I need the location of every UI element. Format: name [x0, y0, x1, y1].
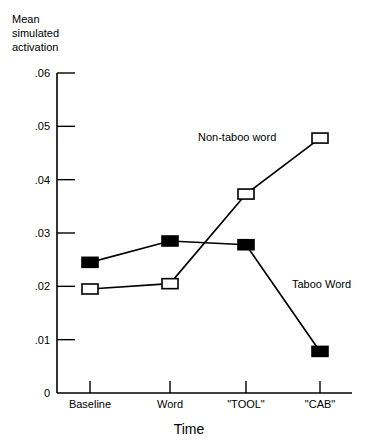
- series-label: Taboo Word: [292, 278, 351, 290]
- series-label: Non-taboo word: [198, 131, 276, 143]
- data-point-marker: [312, 133, 328, 143]
- plot-area: [0, 0, 378, 444]
- x-tick-label: "CAB": [305, 398, 335, 410]
- y-tick-label: .03: [10, 227, 50, 239]
- x-axis-title: Time: [0, 421, 378, 437]
- x-tick-label: "TOOL": [227, 398, 265, 410]
- y-tick-label: .01: [10, 334, 50, 346]
- data-point-marker: [82, 284, 98, 294]
- data-point-marker: [238, 189, 254, 199]
- y-tick-label: .05: [10, 120, 50, 132]
- x-tick-label: Baseline: [69, 398, 111, 410]
- y-tick-label: 0: [10, 387, 50, 399]
- data-point-marker: [82, 257, 98, 267]
- series-line: [90, 138, 320, 289]
- y-tick-label: .04: [10, 174, 50, 186]
- data-point-marker: [312, 346, 328, 356]
- x-tick-label: Word: [157, 398, 183, 410]
- data-point-marker: [162, 236, 178, 246]
- data-point-marker: [238, 240, 254, 250]
- y-tick-label: .02: [10, 280, 50, 292]
- y-tick-label: .06: [10, 67, 50, 79]
- chart-figure: Mean simulated activation 0.01.02.03.04.…: [0, 0, 378, 444]
- data-point-marker: [162, 279, 178, 289]
- series-line: [90, 241, 320, 351]
